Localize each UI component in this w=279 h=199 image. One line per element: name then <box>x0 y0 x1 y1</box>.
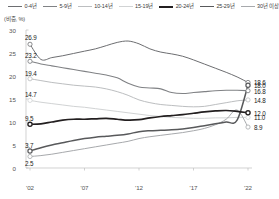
plot-area <box>0 22 279 182</box>
legend-item-label: 15-19년 <box>135 4 153 9</box>
y-axis-label: 5 <box>2 142 16 149</box>
data-point-marker <box>246 125 250 129</box>
end-value-label: 12.0 <box>254 109 266 116</box>
data-point-marker <box>28 149 32 153</box>
data-point-marker <box>246 115 250 119</box>
data-point-marker <box>28 154 32 158</box>
x-axis-label: '22 <box>244 184 252 191</box>
legend-item-20-24년[interactable]: 20-24년 <box>159 4 194 9</box>
y-axis-label: 30 <box>2 27 16 34</box>
legend-item-label: 0-4년 <box>25 4 37 9</box>
start-value-label: 2.5 <box>25 159 33 166</box>
legend-item-10-14년[interactable]: 10-14년 <box>78 4 113 9</box>
chart-legend: 0-4년5-9년10-14년15-19년20-24년25-29년30년 이상 <box>0 0 279 13</box>
x-axis-label: '12 <box>135 184 143 191</box>
legend-item-label: 5-9년 <box>59 4 71 9</box>
x-axis-label: '17 <box>189 184 197 191</box>
series-line-10-14년 <box>30 79 248 107</box>
legend-item-label: 25-29년 <box>216 4 234 9</box>
data-point-marker <box>28 42 32 46</box>
y-axis-label: 10 <box>2 119 16 126</box>
legend-swatch-icon <box>8 6 22 7</box>
chart-container: 0-4년5-9년10-14년15-19년20-24년25-29년30년 이상 (… <box>0 0 279 199</box>
series-line-15-19년 <box>30 100 248 118</box>
legend-item-label: 30년 이상 <box>257 4 279 9</box>
start-value-label: 14.7 <box>25 91 37 98</box>
chart-svg <box>0 22 279 182</box>
start-value-label: 19.4 <box>25 69 37 76</box>
series-line-5-9년 <box>30 61 248 93</box>
data-point-marker <box>28 77 32 81</box>
data-point-marker <box>28 122 32 126</box>
legend-item-label: 10-14년 <box>94 4 112 9</box>
x-axis-label: '02 <box>26 184 34 191</box>
data-point-marker <box>28 98 32 102</box>
data-point-marker <box>246 98 250 102</box>
legend-swatch-icon <box>78 6 92 7</box>
legend-swatch-icon <box>241 6 255 7</box>
legend-swatch-icon <box>159 6 173 8</box>
legend-item-15-19년[interactable]: 15-19년 <box>119 4 154 9</box>
end-value-label: 8.9 <box>254 124 262 131</box>
x-axis-label: '07 <box>80 184 88 191</box>
y-axis-label: 25 <box>2 50 16 57</box>
start-value-label: 23.2 <box>25 52 37 59</box>
legend-item-0-4년[interactable]: 0-4년 <box>8 4 37 9</box>
start-value-label: 26.9 <box>25 34 37 41</box>
data-point-marker <box>28 59 32 63</box>
legend-swatch-icon <box>119 6 133 7</box>
start-value-label: 3.7 <box>25 141 33 148</box>
data-point-marker <box>246 83 250 87</box>
legend-item-label: 20-24년 <box>176 4 194 9</box>
legend-item-30년-이상[interactable]: 30년 이상 <box>241 4 279 9</box>
legend-item-25-29년[interactable]: 25-29년 <box>200 4 235 9</box>
legend-item-5-9년[interactable]: 5-9년 <box>43 4 72 9</box>
legend-swatch-icon <box>200 6 214 7</box>
start-value-label: 9.5 <box>25 115 33 122</box>
end-value-label: 18.0 <box>254 82 266 89</box>
y-axis-label: 20 <box>2 73 16 80</box>
data-point-marker <box>246 89 250 93</box>
end-value-label: 14.8 <box>254 96 266 103</box>
data-point-marker <box>246 111 250 115</box>
legend-swatch-icon <box>43 6 57 7</box>
y-axis-label: 15 <box>2 96 16 103</box>
y-axis-label: 0 <box>2 165 16 172</box>
series-line-30년-이상 <box>30 110 248 157</box>
series-line-0-4년 <box>30 41 248 82</box>
